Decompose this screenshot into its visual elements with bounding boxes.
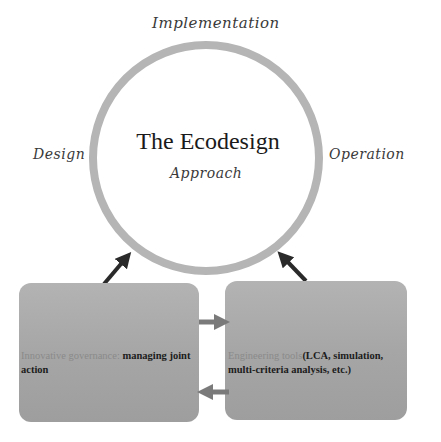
engineering-tools-box: Engineering tools(LCA, simulation, multi… <box>225 281 407 420</box>
engineering-tools-box-text: Engineering tools(LCA, simulation, multi… <box>228 349 406 377</box>
ecodesign-diagram: Implementation Design Operation The Ecod… <box>0 0 441 442</box>
phase-operation-label: Operation <box>329 146 405 162</box>
ecodesign-cycle-circle <box>93 45 319 271</box>
engineering-tools-highlight: Engineering tools <box>228 350 302 361</box>
governance-box-text: Innovative governance: managing joint ac… <box>21 349 199 377</box>
arrow-governance-to-circle <box>104 258 126 284</box>
center-subtitle: Approach <box>170 165 242 181</box>
center-title: The Ecodesign <box>128 128 288 155</box>
governance-box: Innovative governance: managing joint ac… <box>19 283 199 422</box>
phase-implementation-label: Implementation <box>152 14 280 32</box>
governance-highlight: Innovative governance: <box>21 350 120 361</box>
phase-design-label: Design <box>33 146 85 162</box>
arrow-tools-to-circle <box>283 257 306 281</box>
